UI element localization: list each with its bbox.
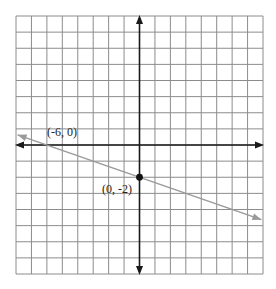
line-left-arrow-icon	[18, 134, 28, 141]
point-marker	[136, 174, 143, 181]
plotted-points	[136, 174, 143, 181]
point-label-x-intercept: (-6, 0)	[47, 125, 77, 140]
line-right-arrow-icon	[252, 213, 262, 220]
coordinate-plane	[0, 0, 276, 289]
point-label-y-intercept: (0, -2)	[102, 182, 132, 197]
axes	[15, 15, 264, 275]
